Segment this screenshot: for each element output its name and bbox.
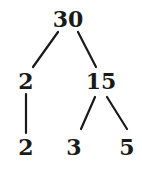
edge-15-to-3 [81,97,95,129]
edge-15-to-5 [107,97,127,129]
node-root-30: 30 [53,8,84,30]
node-prime-3: 3 [66,136,81,158]
node-prime-2: 2 [18,136,33,158]
node-factor-15: 15 [86,70,117,92]
node-factor-2: 2 [18,70,33,92]
factor-tree: 30 2 15 2 3 5 [0,0,142,172]
node-prime-5: 5 [119,136,134,158]
edge-30-to-2 [33,32,58,67]
edge-30-to-15 [78,32,96,67]
